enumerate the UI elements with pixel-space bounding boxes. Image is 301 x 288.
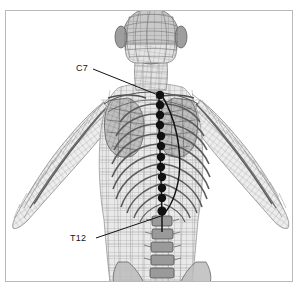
head-mesh: [115, 8, 187, 64]
t12-label: T12: [70, 234, 86, 243]
spine-marker-dot: [156, 111, 164, 119]
spine-marker-dot: [157, 206, 166, 215]
c7-label: C7: [76, 64, 88, 73]
spine-marker-dot: [158, 184, 166, 192]
spine-marker-dot: [158, 194, 166, 202]
anatomical-figure: C7 T12: [0, 0, 301, 288]
spine-marker-dot: [158, 173, 166, 181]
left-arm-mesh: [190, 94, 289, 229]
right-arm-mesh: [13, 95, 114, 229]
spine-marker-dot: [157, 163, 165, 171]
spine-marker-dot: [157, 153, 165, 161]
spine-marker-dot: [157, 142, 165, 150]
spine-marker-dot: [157, 132, 165, 140]
figure-canvas: [0, 0, 301, 288]
spine-marker-dot: [156, 121, 164, 129]
spine-marker-dot: [156, 101, 164, 109]
